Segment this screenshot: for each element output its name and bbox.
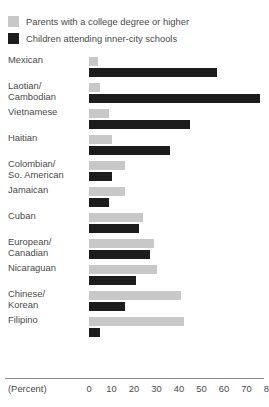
category-label: Nicaraguan	[8, 263, 80, 274]
bar-children	[89, 68, 217, 77]
bar-pair	[89, 213, 269, 233]
category-label: Colombian/So. American	[8, 159, 80, 180]
bar-group: Laotian/Cambodian	[0, 81, 269, 107]
bar-children	[89, 146, 170, 155]
bar-group: Vietnamese	[0, 107, 269, 133]
bar-children	[89, 328, 100, 337]
bar-pair	[89, 135, 269, 155]
bar-pair	[89, 317, 269, 337]
bar-parents	[89, 57, 98, 66]
x-tick-label: 60	[219, 383, 229, 394]
bar-children	[89, 172, 112, 181]
bar-group: Haitian	[0, 133, 269, 159]
bar-parents	[89, 83, 100, 92]
x-axis-ticks: 01020304050607080	[89, 383, 269, 397]
chart-legend: Parents with a college degree or higher …	[8, 14, 189, 48]
bar-pair	[89, 161, 269, 181]
legend-label-children: Children attending inner-city schools	[26, 33, 177, 44]
x-tick-label: 20	[129, 383, 139, 394]
x-axis-line	[5, 378, 264, 379]
x-tick-label: 50	[196, 383, 206, 394]
bar-parents	[89, 135, 112, 144]
legend-swatch-parents	[8, 16, 19, 27]
axis-unit-label: (Percent)	[8, 383, 47, 394]
x-tick-label: 0	[86, 383, 91, 394]
bar-pair	[89, 109, 269, 129]
x-tick-label: 10	[106, 383, 116, 394]
legend-swatch-children	[8, 33, 19, 44]
category-label: Chinese/Korean	[8, 289, 80, 310]
legend-item-children: Children attending inner-city schools	[8, 31, 189, 46]
bar-children	[89, 302, 125, 311]
x-tick-label: 80	[264, 383, 269, 394]
category-label: Vietnamese	[8, 107, 80, 118]
category-label: Cuban	[8, 211, 80, 222]
bar-pair	[89, 291, 269, 311]
bar-group: Jamaican	[0, 185, 269, 211]
bar-chart: Parents with a college degree or higher …	[0, 0, 269, 407]
bar-parents	[89, 161, 125, 170]
bar-children	[89, 120, 190, 129]
x-tick-label: 30	[151, 383, 161, 394]
bar-children	[89, 276, 136, 285]
bar-parents	[89, 317, 184, 326]
bar-parents	[89, 291, 181, 300]
bar-pair	[89, 57, 269, 77]
x-tick-label: 40	[174, 383, 184, 394]
plot-area: MexicanLaotian/CambodianVietnameseHaitia…	[0, 55, 269, 341]
legend-label-parents: Parents with a college degree or higher	[26, 16, 189, 27]
bar-pair	[89, 83, 269, 103]
bar-group: Filipino	[0, 315, 269, 341]
bar-parents	[89, 213, 143, 222]
bar-group: Colombian/So. American	[0, 159, 269, 185]
bar-parents	[89, 187, 125, 196]
bar-pair	[89, 187, 269, 207]
category-label: Filipino	[8, 315, 80, 326]
bar-pair	[89, 265, 269, 285]
category-label: Jamaican	[8, 185, 80, 196]
bar-children	[89, 198, 109, 207]
bar-children	[89, 94, 260, 103]
bar-parents	[89, 109, 109, 118]
category-label: European/Canadian	[8, 237, 80, 258]
category-label: Laotian/Cambodian	[8, 81, 80, 102]
bar-pair	[89, 239, 269, 259]
category-label: Haitian	[8, 133, 80, 144]
legend-item-parents: Parents with a college degree or higher	[8, 14, 189, 29]
bar-children	[89, 250, 150, 259]
bar-parents	[89, 265, 157, 274]
bar-parents	[89, 239, 154, 248]
bar-group: Chinese/Korean	[0, 289, 269, 315]
bar-group: Mexican	[0, 55, 269, 81]
bar-group: Nicaraguan	[0, 263, 269, 289]
bar-children	[89, 224, 139, 233]
bar-group: Cuban	[0, 211, 269, 237]
x-tick-label: 70	[241, 383, 251, 394]
category-label: Mexican	[8, 55, 80, 66]
bar-group: European/Canadian	[0, 237, 269, 263]
